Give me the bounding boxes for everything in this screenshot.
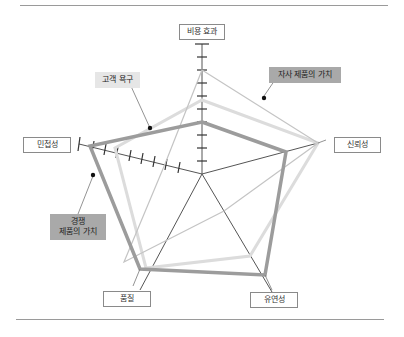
axis-label-quality: 품질 xyxy=(103,291,151,307)
axis-label-flexibility: 유연성 xyxy=(250,292,298,308)
axis-label-cost: 비용 효과 xyxy=(179,24,225,40)
axis-label-agility: 민첩성 xyxy=(23,137,71,153)
radar-chart xyxy=(0,0,404,337)
legend-competitor-line2: 제품의 가치 xyxy=(55,227,101,237)
legend-competitor-line1: 경쟁 xyxy=(55,217,101,227)
legend-customer-needs: 고객 욕구 xyxy=(95,72,140,88)
legend-own-product: 자사 제품의 가치 xyxy=(269,67,341,83)
axis-label-reliability: 신뢰성 xyxy=(334,137,381,153)
legend-competitor: 경쟁 제품의 가치 xyxy=(50,214,106,240)
